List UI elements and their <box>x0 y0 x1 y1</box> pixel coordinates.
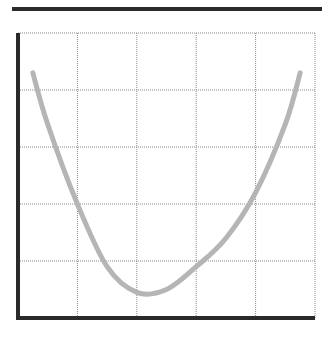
chart <box>0 0 334 340</box>
grid-lines <box>18 33 315 318</box>
